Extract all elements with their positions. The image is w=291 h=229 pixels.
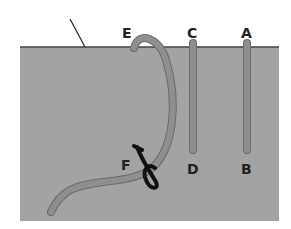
label-f: F	[121, 157, 131, 173]
label-e: E	[122, 25, 132, 41]
diagram-canvas: E C A F D B	[0, 0, 291, 229]
pointer-line	[70, 19, 85, 47]
label-c: C	[187, 25, 197, 41]
label-a: A	[241, 25, 252, 41]
label-b: B	[241, 161, 252, 177]
label-d: D	[187, 161, 199, 177]
